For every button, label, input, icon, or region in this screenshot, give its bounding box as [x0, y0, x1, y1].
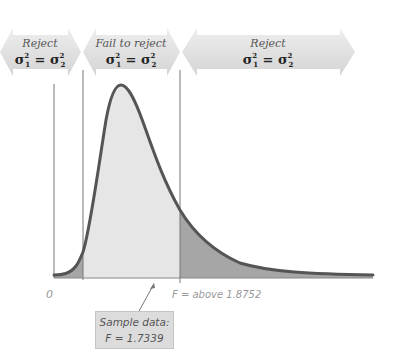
arrow-left-reject: Reject σ21 = σ22	[0, 28, 81, 76]
origin-label: 0	[46, 288, 53, 301]
sample-data-value: F = 1.7339	[96, 330, 173, 346]
arrow-middle-title: Fail to reject	[95, 37, 167, 50]
arrow-right-title: Reject	[249, 37, 286, 50]
arrow-middle-hypothesis: σ21 = σ22	[106, 51, 157, 69]
arrow-right-reject: Reject σ21 = σ22	[182, 28, 355, 76]
arrow-left-hypothesis: σ21 = σ22	[15, 51, 66, 69]
arrow-left-title: Reject	[21, 37, 58, 50]
arrow-middle-fail-to-reject: Fail to reject σ21 = σ22	[83, 28, 180, 76]
f-distribution-diagram: Reject σ21 = σ22 Fail to reject σ21 = σ2…	[0, 0, 395, 363]
sample-data-box: Sample data: F = 1.7339	[95, 311, 174, 349]
sample-pointer-arrowhead	[150, 283, 155, 289]
critical-value-label: F = above 1.8752	[172, 289, 261, 300]
arrow-right-hypothesis: σ21 = σ22	[243, 51, 294, 69]
sample-data-label: Sample data:	[96, 314, 173, 330]
